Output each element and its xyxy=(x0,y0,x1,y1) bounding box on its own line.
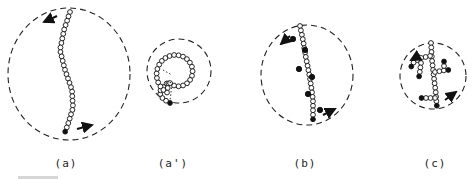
arrow-icon xyxy=(445,92,456,100)
arrow-icon xyxy=(281,36,290,44)
coiled-bead-chain xyxy=(154,53,195,106)
bead-chain xyxy=(58,10,75,135)
panel-label-c: (c) xyxy=(424,157,447,170)
branched-bead-chain xyxy=(409,41,451,109)
panel-b xyxy=(261,24,353,125)
arrow-icon xyxy=(44,16,57,22)
scan-artifact xyxy=(18,176,58,179)
arrow-icon xyxy=(323,109,335,115)
panel-label-a: (a) xyxy=(55,157,78,170)
panel-label-b: (b) xyxy=(294,157,317,170)
polymer-chain-figure: (a) (a') (b) (c) xyxy=(0,0,474,179)
panel-a-prime xyxy=(147,39,211,105)
arrow-icon xyxy=(77,125,92,129)
panel-a xyxy=(8,8,130,140)
bead-chain-with-side-groups xyxy=(290,24,322,122)
panel-label-a-prime: (a') xyxy=(158,157,189,170)
panel-c xyxy=(400,41,466,109)
